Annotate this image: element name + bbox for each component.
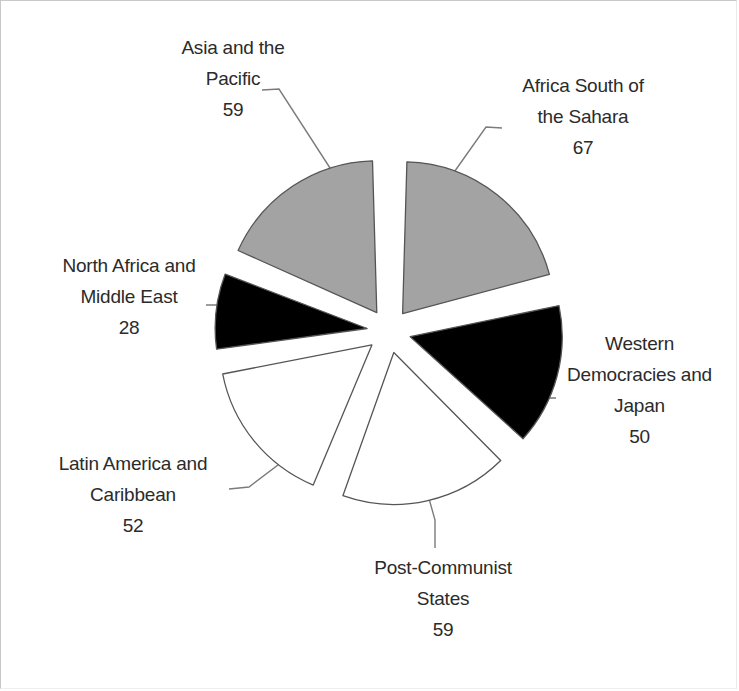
pie-value-western: 50	[540, 421, 739, 452]
pie-label-asia-line2: Pacific	[206, 68, 261, 89]
pie-label-asia-and-the-pacific: Asia and the Pacific 59	[118, 32, 348, 125]
pie-label-post-line2: States	[417, 588, 470, 609]
pie-label-latin-line2: Caribbean	[90, 484, 176, 505]
pie-label-western-line2: Democracies and	[567, 364, 712, 385]
pie-label-africa-south-of-the-sahara: Africa South of the Sahara 67	[468, 70, 698, 163]
pie-label-western-line3: Japan	[614, 395, 665, 416]
pie-value-africa: 67	[468, 132, 698, 163]
pie-label-north-line1: North Africa and	[62, 255, 195, 276]
pie-label-africa-line2: the Sahara	[538, 106, 629, 127]
pie-label-post-communist-states: Post-Communist States 59	[320, 552, 566, 645]
pie-slices	[215, 161, 562, 505]
pie-value-latin: 52	[10, 510, 256, 541]
pie-value-north: 28	[14, 312, 244, 343]
pie-label-north-line2: Middle East	[80, 286, 177, 307]
pie-label-latin-line1: Latin America and	[59, 453, 208, 474]
pie-value-post: 59	[320, 614, 566, 645]
pie-label-latin-america-and-caribbean: Latin America and Caribbean 52	[10, 448, 256, 541]
pie-label-africa-line1: Africa South of	[522, 75, 644, 96]
pie-label-north-africa-and-middle-east: North Africa and Middle East 28	[14, 250, 244, 343]
pie-label-western-democracies-and-japan: Western Democracies and Japan 50	[540, 328, 739, 452]
pie-label-asia-line1: Asia and the	[181, 37, 284, 58]
pie-label-post-line1: Post-Communist	[374, 557, 512, 578]
pie-slice-africa-south-of-the-sahara	[403, 162, 550, 314]
pie-label-western-line1: Western	[605, 333, 674, 354]
pie-chart-figure: Asia and the Pacific 59 Africa South of …	[0, 0, 739, 691]
pie-value-asia: 59	[118, 94, 348, 125]
